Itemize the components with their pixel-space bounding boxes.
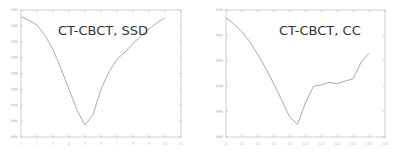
x-tick-label: 3: [52, 142, 54, 146]
ssd-chart: 1234567891011 CT-CBCT, SSD: [0, 0, 205, 154]
x-tick-label: 1: [20, 142, 22, 146]
x-tick-label: 80: [287, 142, 291, 146]
cc-chart: 020406080100120140160180200 CT-CBCT, CC: [205, 0, 411, 154]
x-tick-label: 10: [163, 142, 167, 146]
x-tick-label: 200: [382, 142, 389, 146]
cc-chart-title: CT-CBCT, CC: [279, 23, 361, 38]
x-tick-label: 2: [36, 142, 38, 146]
x-tick-label: 60: [271, 142, 275, 146]
x-tick-label: 7: [116, 142, 118, 146]
x-tick-label: 8: [132, 142, 134, 146]
x-tick-label: 9: [148, 142, 150, 146]
x-tick-label: 180: [366, 142, 373, 146]
x-tick-label: 40: [256, 142, 260, 146]
x-tick-label: 160: [350, 142, 357, 146]
x-tick-label: 11: [179, 142, 183, 146]
x-tick-label: 4: [68, 142, 71, 146]
x-tick-label: 140: [334, 142, 341, 146]
x-tick-label: 120: [318, 142, 325, 146]
x-tick-label: 6: [100, 142, 102, 146]
x-tick-label: 0: [225, 142, 227, 146]
x-tick-label: 5: [84, 142, 86, 146]
x-tick-label: 20: [240, 142, 244, 146]
x-tick-label: 100: [302, 142, 309, 146]
ssd-chart-title: CT-CBCT, SSD: [58, 23, 148, 38]
